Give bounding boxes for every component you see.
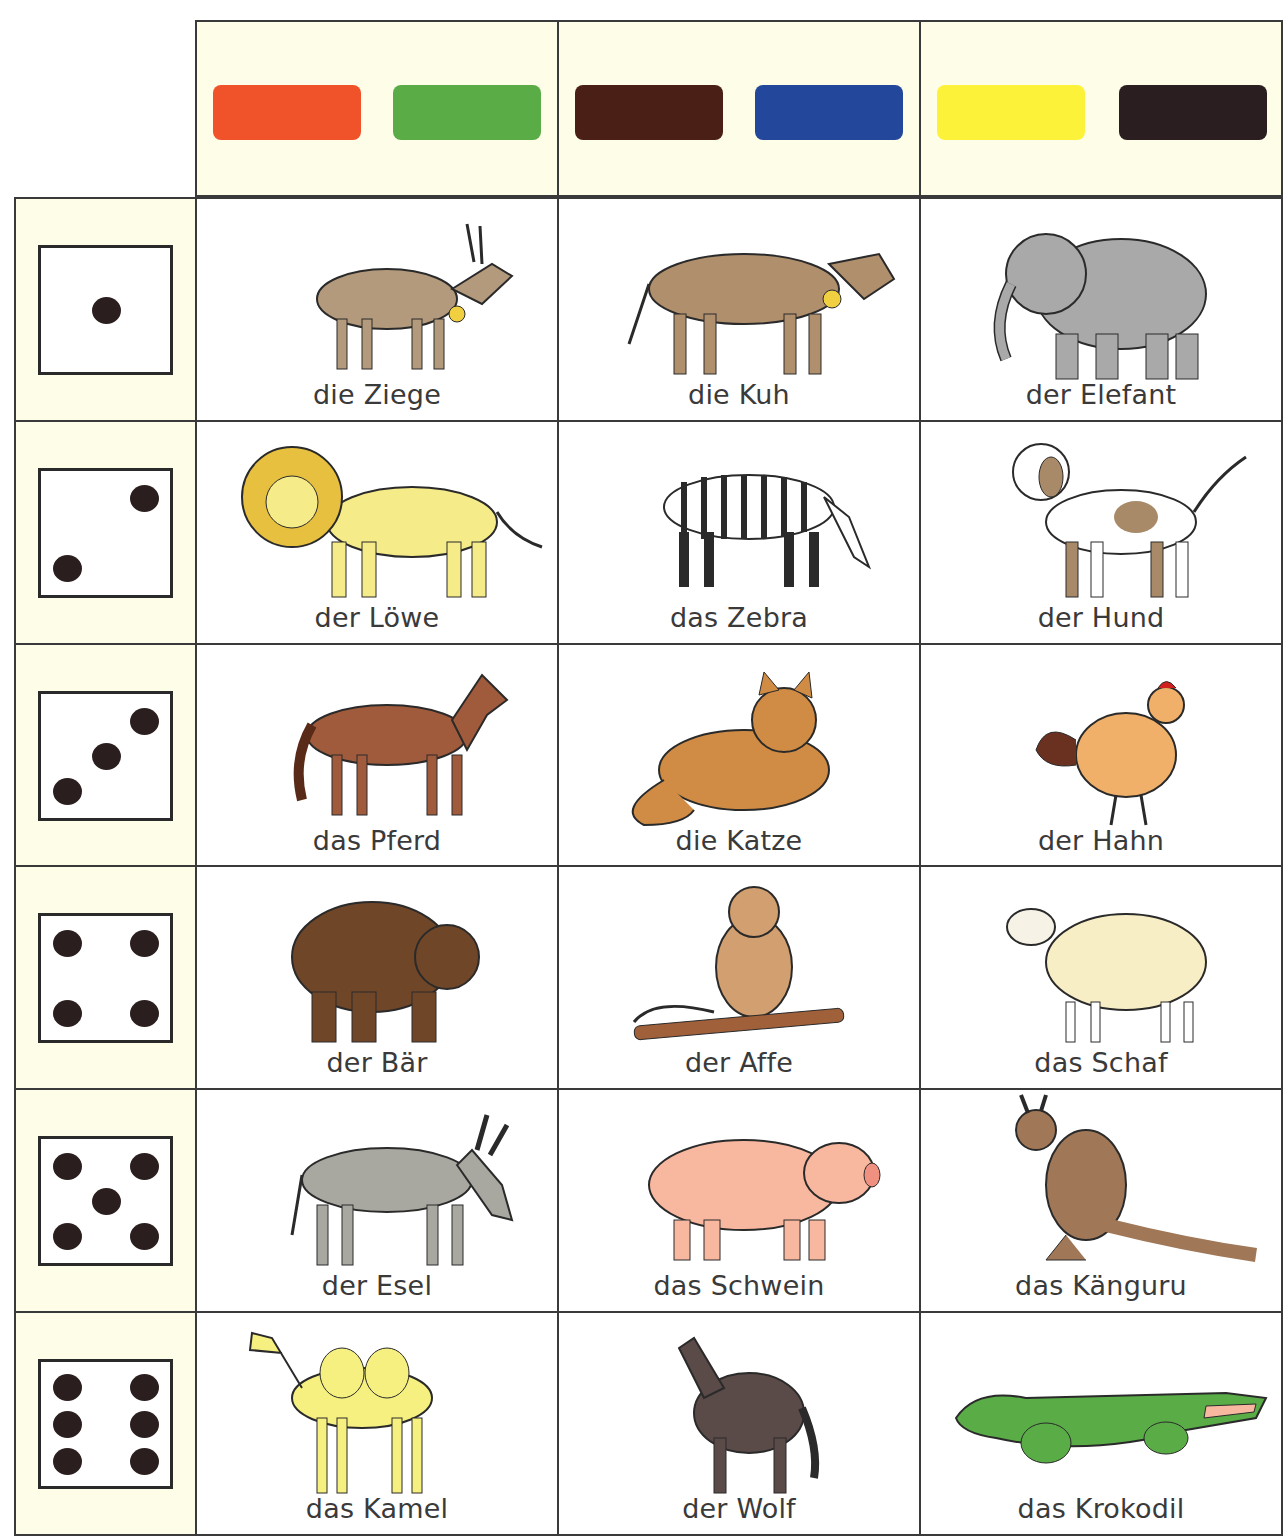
animal-label: der Bär [197,1047,557,1078]
die-pip [130,930,159,957]
die-pip [53,1153,82,1180]
color-swatch-black [1119,85,1267,140]
animal-card-donkey: der Esel [195,1088,559,1313]
die-pip [53,778,82,805]
die-pip [53,1374,82,1401]
animal-label: die Kuh [559,379,919,410]
animal-card-rooster: der Hahn [919,643,1283,868]
die-pip [53,555,82,582]
header-color-cell-3 [919,20,1283,197]
animal-card-sheep: das Schaf [919,865,1283,1090]
rooster-icon [921,645,1281,830]
die-pip [130,1374,159,1401]
animal-card-goat: die Ziege [195,197,559,422]
dice-cell-6 [14,1311,197,1536]
animal-card-crocodile: das Krokodil [919,1311,1283,1536]
animal-label: das Kamel [197,1493,557,1524]
animal-card-pig: das Schwein [557,1088,921,1313]
dice-cell-3 [14,643,197,868]
animal-card-wolf: der Wolf [557,1311,921,1536]
animal-label: der Wolf [559,1493,919,1524]
animal-card-lion: der Löwe [195,420,559,645]
color-swatch-orange [213,85,361,140]
die-pip [130,1411,159,1438]
die-pip [53,1411,82,1438]
animal-card-elephant: der Elefant [919,197,1283,422]
animal-card-bear: der Bär [195,865,559,1090]
die-pip [130,1448,159,1475]
horse-icon [197,645,557,830]
animal-card-cat: die Katze [557,643,921,868]
animal-dice-table: die Ziegedie Kuhder Elefantder Löwedas Z… [0,0,1285,1537]
bear-icon [197,867,557,1052]
cow-icon [559,199,919,384]
die-pip [53,1000,82,1027]
die-pip [130,485,159,512]
animal-card-horse: das Pferd [195,643,559,868]
animal-label: der Elefant [921,379,1281,410]
die-pip [130,1000,159,1027]
header-color-cell-1 [195,20,559,197]
monkey-icon [559,867,919,1052]
dog-icon [921,422,1281,607]
die-pip [92,743,121,770]
animal-label: das Schwein [559,1270,919,1301]
animal-label: die Ziege [197,379,557,410]
die-face-5-icon [38,1136,173,1266]
die-face-4-icon [38,913,173,1043]
die-pip [130,708,159,735]
sheep-icon [921,867,1281,1052]
animal-card-zebra: das Zebra [557,420,921,645]
die-pip [92,1188,121,1215]
crocodile-icon [921,1313,1281,1498]
die-pip [53,1448,82,1475]
color-swatch-green [393,85,541,140]
die-face-1-icon [38,245,173,375]
animal-card-camel: das Kamel [195,1311,559,1536]
animal-label: das Pferd [197,825,557,856]
pig-icon [559,1090,919,1275]
die-pip [130,1223,159,1250]
kangaroo-icon [921,1090,1281,1275]
goat-icon [197,199,557,384]
dice-cell-1 [14,197,197,422]
animal-card-kangaroo: das Känguru [919,1088,1283,1313]
animal-label: das Känguru [921,1270,1281,1301]
die-pip [130,1153,159,1180]
animal-label: das Krokodil [921,1493,1281,1524]
color-swatch-yellow [937,85,1085,140]
animal-label: die Katze [559,825,919,856]
die-face-6-icon [38,1359,173,1489]
animal-card-monkey: der Affe [557,865,921,1090]
die-pip [53,930,82,957]
dice-cell-2 [14,420,197,645]
header-color-cell-2 [557,20,921,197]
lion-icon [197,422,557,607]
elephant-icon [921,199,1281,384]
animal-card-dog: der Hund [919,420,1283,645]
animal-label: das Schaf [921,1047,1281,1078]
zebra-icon [559,422,919,607]
animal-label: das Zebra [559,602,919,633]
animal-label: der Hahn [921,825,1281,856]
color-swatch-brown [575,85,723,140]
wolf-icon [559,1313,919,1498]
color-swatch-blue [755,85,903,140]
dice-cell-5 [14,1088,197,1313]
cat-icon [559,645,919,830]
die-pip [53,1223,82,1250]
die-face-3-icon [38,691,173,821]
animal-label: der Affe [559,1047,919,1078]
die-pip [92,297,121,324]
animal-label: der Löwe [197,602,557,633]
camel-icon [197,1313,557,1498]
dice-cell-4 [14,865,197,1090]
animal-label: der Esel [197,1270,557,1301]
donkey-icon [197,1090,557,1275]
die-face-2-icon [38,468,173,598]
animal-label: der Hund [921,602,1281,633]
animal-card-cow: die Kuh [557,197,921,422]
